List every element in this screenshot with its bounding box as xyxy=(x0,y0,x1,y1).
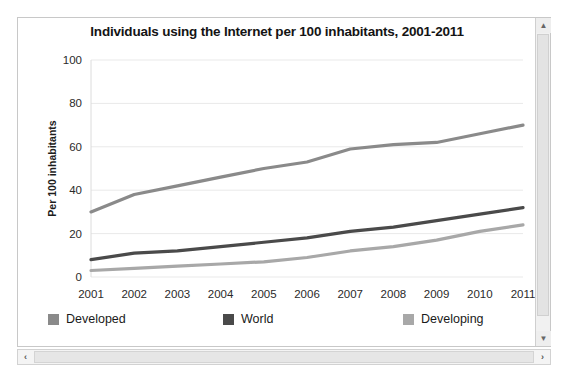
y-axis-label: Per 100 inhabitants xyxy=(46,120,58,216)
x-tick-label: 2010 xyxy=(467,288,493,300)
scroll-down-icon[interactable]: ▼ xyxy=(536,331,551,346)
scroll-up-icon[interactable]: ▲ xyxy=(536,18,551,33)
x-tick-label: 2011 xyxy=(511,288,536,300)
x-tick-label: 2007 xyxy=(337,288,363,300)
scroll-left-icon[interactable]: ‹ xyxy=(18,350,33,364)
x-tick-label: 2005 xyxy=(251,288,277,300)
horizontal-scrollbar-thumb[interactable] xyxy=(34,351,534,363)
y-tick-label: 60 xyxy=(69,141,82,153)
y-tick-label: 80 xyxy=(69,97,82,109)
legend-item-developing[interactable]: Developing xyxy=(403,312,484,326)
horizontal-scrollbar[interactable]: ‹ › xyxy=(17,349,551,365)
line-chart-plot: 020406080100Per 100 inhabitants200120022… xyxy=(18,18,536,346)
vertical-scrollbar-thumb[interactable] xyxy=(537,34,549,316)
legend-swatch-icon xyxy=(48,314,59,325)
vertical-scrollbar[interactable]: ▲ ▼ xyxy=(535,18,550,346)
x-tick-label: 2009 xyxy=(424,288,450,300)
scroll-right-icon[interactable]: › xyxy=(535,350,550,364)
x-tick-label: 2003 xyxy=(165,288,191,300)
series-line-developed xyxy=(91,125,523,212)
y-tick-label: 40 xyxy=(69,184,82,196)
x-tick-label: 2008 xyxy=(381,288,407,300)
legend-swatch-icon xyxy=(403,314,414,325)
series-line-developing xyxy=(91,225,523,271)
chart-panel: Individuals using the Internet per 100 i… xyxy=(17,17,551,347)
x-tick-label: 2002 xyxy=(121,288,147,300)
legend-item-developed[interactable]: Developed xyxy=(48,312,126,326)
legend-label: Developed xyxy=(66,312,126,326)
x-tick-label: 2001 xyxy=(78,288,104,300)
y-tick-label: 100 xyxy=(63,54,82,66)
x-tick-label: 2006 xyxy=(294,288,320,300)
chart-container: Individuals using the Internet per 100 i… xyxy=(18,18,536,346)
x-tick-label: 2004 xyxy=(208,288,234,300)
legend-label: Developing xyxy=(421,312,484,326)
chart-legend: DevelopedWorldDeveloping xyxy=(18,306,536,332)
y-tick-label: 0 xyxy=(76,271,82,283)
legend-item-world[interactable]: World xyxy=(223,312,273,326)
y-tick-label: 20 xyxy=(69,228,82,240)
legend-swatch-icon xyxy=(223,314,234,325)
legend-label: World xyxy=(241,312,273,326)
